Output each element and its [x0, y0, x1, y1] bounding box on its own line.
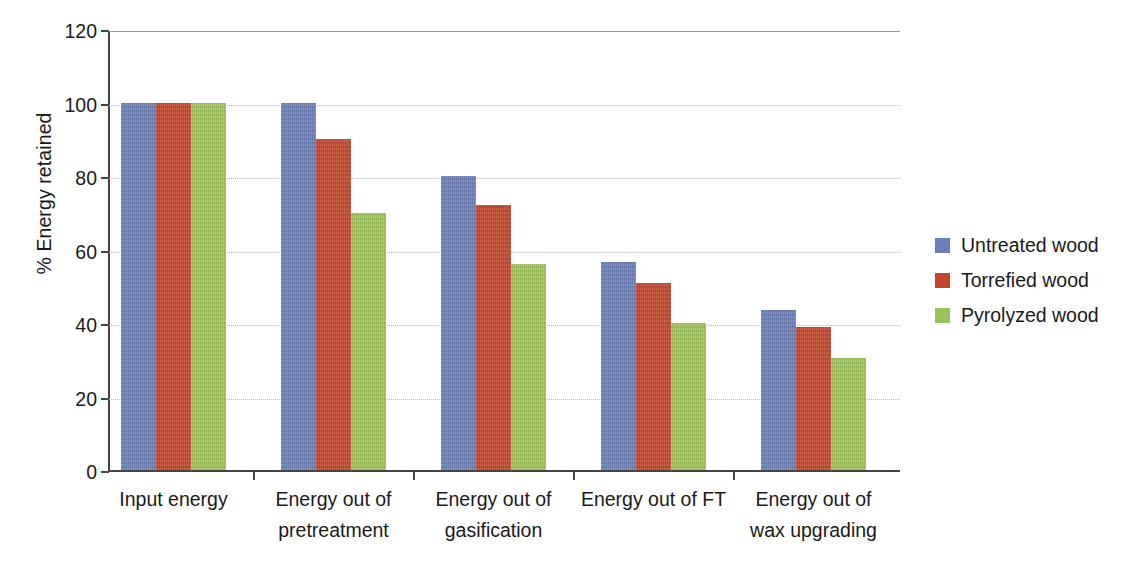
y-tick-label: 0 — [37, 461, 97, 484]
x-tick-mark — [413, 472, 415, 480]
y-tick-label: 100 — [37, 93, 97, 116]
x-tick-mark — [253, 472, 255, 480]
legend-label: Torrefied wood — [961, 269, 1089, 292]
bar-group — [281, 31, 386, 470]
bar — [796, 327, 831, 470]
y-tick-mark — [101, 324, 109, 326]
plot-inner: 020406080100120 — [108, 31, 900, 472]
bar — [156, 103, 191, 471]
legend-swatch — [935, 308, 950, 323]
y-tick-mark — [101, 398, 109, 400]
x-tick-mark — [733, 472, 735, 480]
legend-swatch — [935, 238, 950, 253]
y-tick-label: 80 — [37, 167, 97, 190]
legend-item: Torrefied wood — [935, 263, 1099, 298]
y-tick-label: 40 — [37, 314, 97, 337]
bar — [601, 262, 636, 470]
y-tick-label: 120 — [37, 20, 97, 43]
y-tick-mark — [101, 471, 109, 473]
bar — [351, 213, 386, 470]
bar — [191, 103, 226, 471]
y-tick-mark — [101, 30, 109, 32]
y-tick-mark — [101, 104, 109, 106]
bar — [671, 323, 706, 470]
legend-label: Pyrolyzed wood — [961, 304, 1099, 327]
bar — [511, 264, 546, 470]
bar — [636, 283, 671, 470]
bar-group — [761, 31, 866, 470]
legend-item: Untreated wood — [935, 228, 1099, 263]
x-tick-mark — [573, 472, 575, 480]
legend-item: Pyrolyzed wood — [935, 298, 1099, 333]
plot-area: 020406080100120 — [108, 31, 900, 472]
x-axis-category-label: Energy out ofwax upgrading — [719, 484, 909, 546]
legend-label: Untreated wood — [961, 234, 1099, 257]
x-axis-line — [108, 470, 900, 472]
y-tick-label: 20 — [37, 387, 97, 410]
legend-swatch — [935, 273, 950, 288]
legend: Untreated woodTorrefied woodPyrolyzed wo… — [935, 228, 1099, 333]
bar — [441, 176, 476, 470]
bar-chart: % Energy retained 020406080100120 Input … — [0, 0, 1125, 564]
bar-group — [121, 31, 226, 470]
bar-group — [601, 31, 706, 470]
y-tick-label: 60 — [37, 240, 97, 263]
bar — [476, 205, 511, 470]
bar — [121, 103, 156, 471]
y-tick-mark — [101, 177, 109, 179]
y-tick-mark — [101, 251, 109, 253]
bar — [831, 358, 866, 470]
bar-group — [441, 31, 546, 470]
bar — [316, 139, 351, 470]
bar — [281, 103, 316, 471]
bar — [761, 310, 796, 470]
